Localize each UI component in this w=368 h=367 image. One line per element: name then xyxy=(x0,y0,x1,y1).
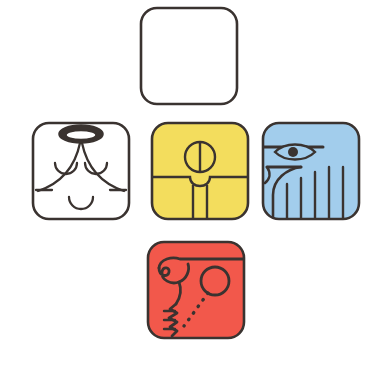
glyph-tile-spiral-and-circle[interactable] xyxy=(146,240,246,340)
spiral-and-circle-icon xyxy=(146,240,246,340)
top-ellipse-ring-inner xyxy=(66,130,96,139)
blank-cartouche-icon xyxy=(139,6,239,106)
split-circle-figure-icon xyxy=(150,121,250,221)
glyph-tile-closed-eyes-face[interactable] xyxy=(31,121,131,221)
closed-eyes-face-icon xyxy=(31,121,131,221)
glyph-tile-split-circle-figure[interactable] xyxy=(150,121,250,221)
eye-and-feathers-icon xyxy=(261,121,361,221)
tile-body xyxy=(141,8,237,104)
glyph-board xyxy=(0,0,368,367)
tile-body xyxy=(148,242,244,338)
eye-pupil xyxy=(288,147,298,157)
glyph-tile-blank-cartouche[interactable] xyxy=(139,6,239,106)
glyph-tile-eye-and-feathers[interactable] xyxy=(261,121,361,221)
tile-body xyxy=(263,123,359,219)
